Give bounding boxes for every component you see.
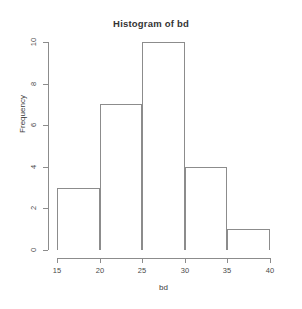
y-tick-mark (43, 250, 48, 251)
x-tick-label: 15 (47, 266, 67, 275)
y-axis-line (48, 42, 49, 250)
x-tick-label: 40 (260, 266, 280, 275)
chart-title: Histogram of bd (0, 18, 302, 29)
y-tick-label: 4 (26, 162, 40, 172)
histogram-bar (100, 104, 143, 250)
x-tick-mark (142, 258, 143, 263)
y-tick-mark (43, 208, 48, 209)
plot-area (57, 42, 270, 250)
x-tick-label: 30 (175, 266, 195, 275)
x-tick-mark (270, 258, 271, 263)
x-tick-mark (227, 258, 228, 263)
x-tick-label: 35 (217, 266, 237, 275)
histogram-bar (142, 42, 185, 250)
x-axis-line (57, 258, 270, 259)
x-tick-label: 20 (90, 266, 110, 275)
y-tick-label: 0 (26, 245, 40, 255)
x-tick-mark (100, 258, 101, 263)
x-tick-mark (185, 258, 186, 263)
x-tick-mark (57, 258, 58, 263)
histogram-figure: Histogram of bd Frequency 0246810 152025… (0, 0, 302, 309)
y-tick-mark (43, 167, 48, 168)
histogram-bar (57, 188, 100, 250)
y-tick-label: 8 (26, 79, 40, 89)
y-tick-mark (43, 84, 48, 85)
y-tick-label: 10 (26, 37, 40, 47)
histogram-bar (185, 167, 228, 250)
y-tick-label: 6 (26, 120, 40, 130)
y-tick-mark (43, 125, 48, 126)
x-tick-label: 25 (132, 266, 152, 275)
y-tick-mark (43, 42, 48, 43)
y-tick-label: 2 (26, 203, 40, 213)
histogram-bar (227, 229, 270, 250)
x-axis-title: bd (57, 283, 270, 292)
